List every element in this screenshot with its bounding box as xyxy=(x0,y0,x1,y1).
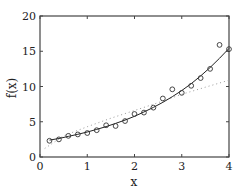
data-point xyxy=(113,124,118,129)
y-tick-label: 15 xyxy=(22,45,36,58)
data-point xyxy=(170,87,175,92)
plot-frame xyxy=(40,16,229,157)
data-point xyxy=(85,131,90,136)
y-tick-label: 10 xyxy=(22,81,36,94)
x-tick-label: 2 xyxy=(131,160,138,173)
y-tick-label: 20 xyxy=(22,10,36,23)
solid-fit-line xyxy=(50,48,230,140)
data-point xyxy=(47,138,52,143)
data-markers xyxy=(47,43,231,144)
data-point xyxy=(160,96,165,101)
data-point xyxy=(179,90,184,95)
axis-ticks xyxy=(40,16,229,157)
x-tick-label: 3 xyxy=(178,160,185,173)
chart: 05101520 01234 x f(x) xyxy=(0,0,239,192)
y-tick-label: 5 xyxy=(29,116,36,129)
y-axis-label: f(x) xyxy=(5,78,19,99)
data-point xyxy=(217,43,222,48)
data-point xyxy=(132,112,137,117)
x-tick-labels: 01234 xyxy=(37,160,233,173)
x-tick-label: 0 xyxy=(37,160,44,173)
x-axis-label: x xyxy=(131,175,138,189)
x-tick-label: 1 xyxy=(84,160,91,173)
y-tick-label: 0 xyxy=(29,151,36,164)
y-tick-labels: 05101520 xyxy=(22,10,36,164)
x-tick-label: 4 xyxy=(226,160,233,173)
